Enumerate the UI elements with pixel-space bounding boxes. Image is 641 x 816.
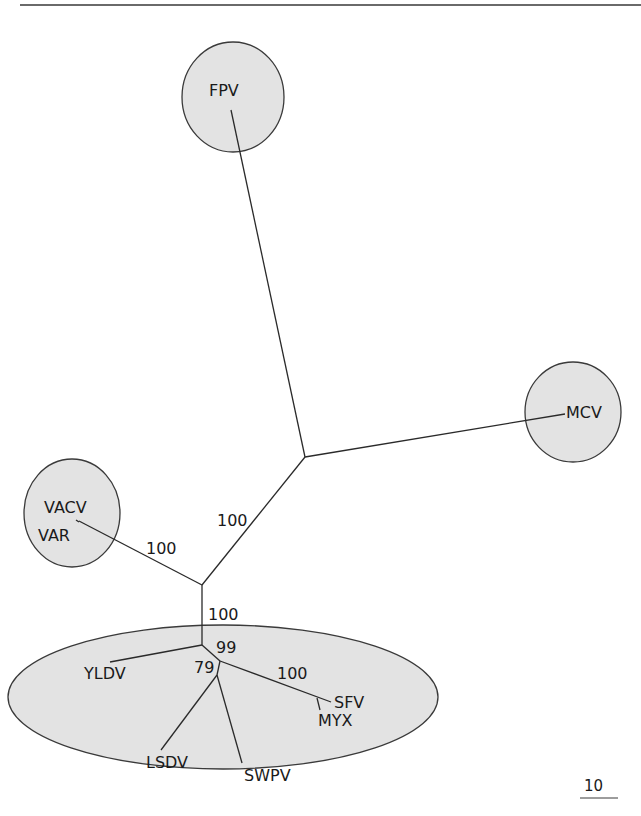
taxon-label-mcv: MCV [566, 403, 602, 422]
taxon-label-lsdv: LSDV [146, 753, 188, 772]
support-value-vacv-var: 100 [146, 539, 177, 558]
support-value-lower-stem: 100 [208, 605, 239, 624]
support-value-99: 99 [216, 638, 236, 657]
taxon-label-swpv: SWPV [244, 766, 291, 785]
support-value-sfv-myx: 100 [277, 664, 308, 683]
branch-mcv [305, 414, 565, 457]
taxon-label-yldv: YLDV [83, 664, 126, 683]
scale-bar-label: 10 [584, 777, 603, 795]
taxon-label-fpv: FPV [209, 81, 239, 100]
branch-fpv [231, 110, 305, 457]
taxon-label-sfv: SFV [334, 693, 364, 712]
taxon-label-myx: MYX [318, 711, 353, 730]
support-value-central: 100 [217, 511, 248, 530]
phylogenetic-tree: FPV MCV VACV VAR YLDV LSDV SWPV SFV MYX … [0, 0, 641, 816]
support-value-79: 79 [194, 658, 214, 677]
taxon-label-var: VAR [38, 526, 70, 545]
taxon-label-vacv: VACV [44, 498, 87, 517]
